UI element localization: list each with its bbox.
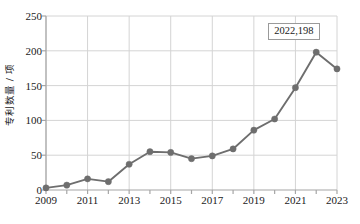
data-point-marker bbox=[272, 116, 278, 122]
y-tick-label: 250 bbox=[26, 10, 43, 22]
y-axis-title-text: 专利数量 / 项 bbox=[2, 64, 16, 126]
x-axis-tick-labels: 20092011201320152017201920212023 bbox=[46, 192, 337, 218]
x-tick-label: 2019 bbox=[243, 194, 265, 206]
data-label-callout: 2022,198 bbox=[268, 23, 319, 40]
series-line bbox=[46, 52, 337, 188]
y-tick-label: 50 bbox=[31, 149, 42, 161]
data-point-marker bbox=[188, 156, 194, 162]
data-point-marker bbox=[168, 149, 174, 155]
plot-area bbox=[46, 16, 337, 190]
y-axis-tick-labels: 050100150200250 bbox=[18, 0, 44, 190]
x-tick-label: 2017 bbox=[201, 194, 223, 206]
data-point-marker bbox=[126, 161, 132, 167]
data-point-marker bbox=[147, 149, 153, 155]
data-point-marker bbox=[84, 176, 90, 182]
data-point-marker bbox=[209, 153, 215, 159]
y-tick-label: 100 bbox=[26, 114, 43, 126]
data-point-marker bbox=[334, 66, 340, 72]
data-point-marker bbox=[251, 127, 257, 133]
y-axis-title: 专利数量 / 项 bbox=[0, 0, 18, 190]
data-point-marker bbox=[64, 182, 70, 188]
x-tick-label: 2011 bbox=[77, 194, 99, 206]
data-point-marker bbox=[105, 179, 111, 185]
x-tick-label: 2009 bbox=[35, 194, 57, 206]
patent-count-line-chart: 专利数量 / 项 050100150200250 200920112013201… bbox=[0, 0, 360, 224]
data-point-marker bbox=[230, 146, 236, 152]
x-tick-label: 2013 bbox=[118, 194, 140, 206]
data-series bbox=[46, 16, 337, 190]
x-tick-label: 2023 bbox=[326, 194, 348, 206]
y-tick-label: 200 bbox=[26, 45, 43, 57]
y-tick-label: 150 bbox=[26, 80, 43, 92]
data-point-marker bbox=[292, 85, 298, 91]
data-point-marker bbox=[43, 185, 49, 191]
x-tick-label: 2021 bbox=[284, 194, 306, 206]
x-tick-label: 2015 bbox=[160, 194, 182, 206]
data-point-marker bbox=[313, 49, 319, 55]
